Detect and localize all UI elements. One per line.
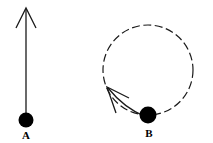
mass-label-a: A [22,129,30,141]
mass-label-b: B [145,127,153,139]
diagram-svg: A B [0,0,213,143]
mass-ball-a [19,113,34,128]
physics-diagram-canvas: A B [0,0,213,143]
mass-ball-b [140,107,157,124]
